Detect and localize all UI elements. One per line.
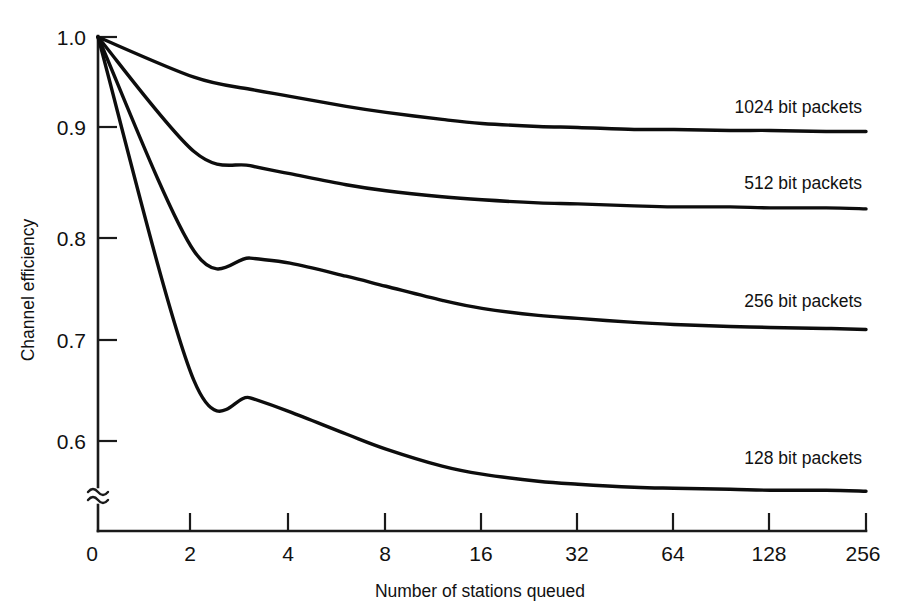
series-labels: 1024 bit packets 512 bit packets 256 bit… [735, 97, 863, 468]
x-tick-label-2: 2 [184, 542, 196, 565]
x-tick-labels: 0 2 4 8 16 32 64 128 256 [86, 542, 880, 565]
y-axis-break-icon [88, 489, 108, 503]
series-label-256: 256 bit packets [744, 291, 862, 311]
chart-figure: 1.0 0.9 0.8 0.7 0.6 0 2 4 8 16 32 64 128 [0, 0, 900, 615]
x-tick-label-4: 4 [282, 542, 294, 565]
series-label-128: 128 bit packets [744, 448, 862, 468]
series-label-512: 512 bit packets [744, 173, 862, 193]
series-label-1024: 1024 bit packets [735, 97, 863, 117]
y-tick-label-0.7: 0.7 [57, 329, 86, 352]
y-tick-label-0.6: 0.6 [57, 430, 86, 453]
x-tick-label-8: 8 [379, 542, 391, 565]
y-axis-title: Channel efficiency [18, 218, 38, 361]
x-tick-label-128: 128 [751, 542, 786, 565]
x-tick-label-16: 16 [469, 542, 492, 565]
y-tick-label-1.0: 1.0 [57, 26, 86, 49]
x-tick-label-32: 32 [565, 542, 588, 565]
x-tick-label-0: 0 [86, 542, 98, 565]
x-ticks [190, 513, 866, 531]
y-tick-label-0.8: 0.8 [57, 227, 86, 250]
x-axis-title: Number of stations queued [375, 581, 585, 601]
channel-efficiency-chart: 1.0 0.9 0.8 0.7 0.6 0 2 4 8 16 32 64 128 [0, 0, 900, 615]
y-tick-labels: 1.0 0.9 0.8 0.7 0.6 [57, 26, 86, 453]
x-tick-label-256: 256 [845, 542, 880, 565]
x-tick-label-64: 64 [661, 542, 685, 565]
curve-1024-bit-packets [98, 37, 866, 132]
y-tick-label-0.9: 0.9 [57, 116, 86, 139]
